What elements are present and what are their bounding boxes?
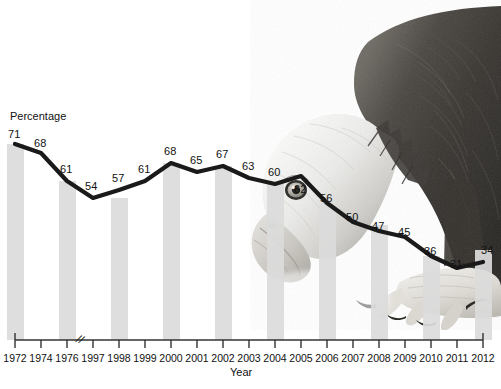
value-label: 36 xyxy=(424,245,436,257)
labels-layer: 71 68 61 54 57 61 68 65 67 63 60 62 56 5… xyxy=(0,0,501,389)
value-label: 57 xyxy=(112,172,124,184)
value-label: 56 xyxy=(320,192,332,204)
x-tick-label: 2012 xyxy=(468,352,498,364)
value-label: 65 xyxy=(190,154,202,166)
value-label: 34 xyxy=(481,244,493,256)
value-label: 60 xyxy=(268,166,280,178)
value-label: 67 xyxy=(216,148,228,160)
value-label: 71 xyxy=(8,128,20,140)
chart-canvas: // Percentage Year 71 68 61 54 57 61 68 … xyxy=(0,0,501,389)
value-label: 63 xyxy=(242,160,254,172)
value-label: 54 xyxy=(85,180,97,192)
value-label: 45 xyxy=(398,226,410,238)
value-label: 62 xyxy=(294,183,306,195)
value-label: 50 xyxy=(346,211,358,223)
value-label: 68 xyxy=(34,137,46,149)
value-label: 47 xyxy=(372,220,384,232)
value-label: 61 xyxy=(60,163,72,175)
value-label: 61 xyxy=(138,163,150,175)
value-label: 68 xyxy=(164,145,176,157)
value-label: 31 xyxy=(450,258,462,270)
